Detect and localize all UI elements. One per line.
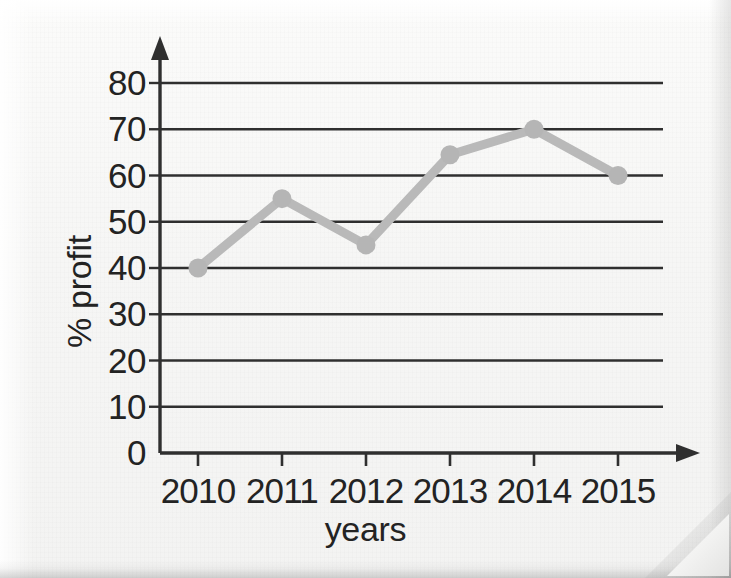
data-point-2011	[273, 189, 292, 208]
gridlines	[160, 83, 663, 407]
x-axis-label-2014: 2014	[489, 473, 579, 508]
x-axis-arrowhead	[676, 444, 700, 462]
scanned-chart-page: 01020304050607080 2010201120122013201420…	[0, 0, 731, 578]
x-axis-label-2015: 2015	[573, 473, 663, 508]
x-axis-label-2010: 2010	[153, 473, 243, 508]
y-axis-label-0: 0	[80, 435, 146, 470]
y-axis-title: % profit	[62, 235, 96, 348]
y-axis-label-80: 80	[80, 65, 146, 100]
series-line-pct-profit	[198, 129, 618, 268]
data-point-2012	[357, 235, 376, 254]
x-axis-label-2013: 2013	[405, 473, 495, 508]
axis-lines	[151, 36, 700, 462]
data-point-2015	[609, 166, 628, 185]
y-axis-label-70: 70	[80, 111, 146, 146]
x-axis-label-2011: 2011	[237, 473, 327, 508]
line-chart: 01020304050607080 2010201120122013201420…	[0, 0, 731, 578]
data-point-2014	[525, 120, 544, 139]
x-axis-label-2012: 2012	[321, 473, 411, 508]
data-point-2010	[189, 259, 208, 278]
y-axis-label-60: 60	[80, 158, 146, 193]
y-axis-arrowhead	[151, 36, 169, 60]
y-axis-label-10: 10	[80, 389, 146, 424]
x-axis-title: years	[0, 512, 731, 546]
y-axis-label-50: 50	[80, 204, 146, 239]
x-axis-ticks	[198, 453, 618, 466]
data-point-2013	[441, 145, 460, 164]
